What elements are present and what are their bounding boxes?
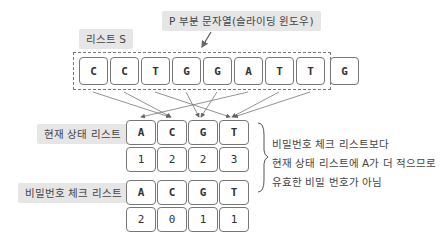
note-line-1: 비밀번호 체크 리스트보다	[272, 137, 389, 151]
window-pointer-arrow	[202, 32, 211, 47]
password-check-label: 비밀번호 체크 리스트	[18, 183, 129, 203]
current-state-value: 1	[126, 147, 156, 172]
password-check-value: 2	[126, 207, 156, 232]
current-state-value: 2	[157, 147, 187, 172]
sequence-cell: T	[265, 57, 294, 85]
sequence-cell: G	[203, 57, 232, 85]
password-check-value: 1	[188, 207, 218, 232]
password-check-key: T	[219, 180, 249, 205]
sequence-cell: A	[234, 57, 263, 85]
password-check-key: A	[126, 180, 156, 205]
note-line-3: 유효한 비밀 번호가 아님	[272, 175, 382, 189]
sequence-cell: G	[330, 57, 359, 85]
current-state-value: 3	[219, 147, 249, 172]
list-s-label: 리스트 S	[79, 29, 133, 49]
sequence-cell: C	[79, 57, 108, 85]
current-state-key: T	[219, 120, 249, 145]
sequence-cell: T	[296, 57, 325, 85]
sequence-cell: T	[141, 57, 170, 85]
password-check-value: 0	[157, 207, 187, 232]
password-check-key: C	[157, 180, 187, 205]
current-state-key: C	[157, 120, 187, 145]
note-line-2: 현재 상태 리스트에 A가 더 적으므로	[272, 156, 436, 170]
sequence-cell: G	[172, 57, 201, 85]
current-state-key: A	[126, 120, 156, 145]
sequence-cell: C	[110, 57, 139, 85]
current-state-key: G	[188, 120, 218, 145]
sliding-window-label: P 부분 문자열(슬라이딩 윈도우)	[162, 11, 321, 31]
password-check-key: G	[188, 180, 218, 205]
mapping-arrows	[93, 92, 310, 117]
brace-icon	[258, 123, 268, 192]
current-state-value: 2	[188, 147, 218, 172]
current-state-label: 현재 상태 리스트	[37, 124, 128, 144]
password-check-value: 1	[219, 207, 249, 232]
